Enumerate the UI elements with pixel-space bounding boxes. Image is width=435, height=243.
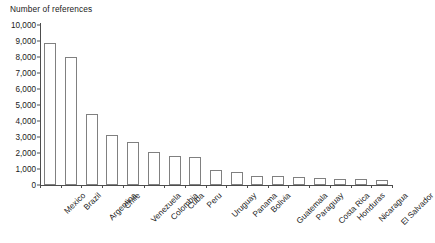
bar-venezuela [127, 142, 139, 185]
x-axis-tick-mark [61, 185, 62, 188]
x-axis-tick-mark [288, 185, 289, 188]
x-axis-tick-label: El Salvador [399, 191, 435, 227]
y-axis-tick-label: 3,000 [16, 133, 37, 142]
y-axis-tick-label: 8,000 [16, 53, 37, 62]
x-axis-line [40, 185, 392, 186]
y-axis-tick-mark [37, 57, 40, 58]
x-axis-tick-label: Uruguay [230, 191, 258, 219]
y-axis-tick-mark [37, 169, 40, 170]
bar-guatemala [272, 176, 284, 185]
y-axis-tick-label: 7,000 [16, 69, 37, 78]
x-axis-tick-label: Mexico [63, 191, 88, 216]
x-axis-tick-mark [40, 185, 41, 188]
bar-brazil [65, 57, 77, 185]
bar-paraguay [293, 177, 305, 185]
bar-nicaragua [355, 179, 367, 185]
y-axis-tick-labels: 10,0009,0008,0007,0006,0005,0004,0003,00… [0, 0, 36, 243]
y-axis-tick-mark [37, 89, 40, 90]
x-axis-tick-label: Brazil [82, 191, 103, 212]
x-axis-tick-label: Panama [251, 191, 279, 219]
y-axis-tick-label: 9,000 [16, 37, 37, 46]
x-axis-tick-mark [144, 185, 145, 188]
plot-area [40, 25, 392, 185]
bar-peru [189, 157, 201, 185]
x-axis-tick-mark [226, 185, 227, 188]
bar-bolivia [251, 176, 263, 185]
x-axis-tick-mark [392, 185, 393, 188]
bar-uruguay [210, 170, 222, 185]
bar-colombia [148, 152, 160, 185]
y-axis-tick-mark [37, 153, 40, 154]
x-axis-tick-label: Honduras [356, 191, 387, 222]
y-axis-tick-mark [37, 25, 40, 26]
x-axis-tick-label: Peru [205, 191, 224, 210]
y-axis-tick-label: 4,000 [16, 117, 37, 126]
x-axis-tick-label: Cuba [185, 191, 205, 211]
x-axis-tick-mark [185, 185, 186, 188]
x-axis-tick-label: Argentina [107, 191, 138, 222]
y-axis-tick-mark [37, 137, 40, 138]
x-axis-tick-mark [351, 185, 352, 188]
x-axis-tick-label: Colombia [169, 191, 200, 222]
x-axis-tick-mark [330, 185, 331, 188]
x-axis-tick-mark [123, 185, 124, 188]
x-axis-tick-mark [102, 185, 103, 188]
bar-chile [106, 135, 118, 185]
x-axis-tick-label: Guatemala [295, 191, 330, 226]
x-axis-tick-mark [371, 185, 372, 188]
x-axis-tick-mark [309, 185, 310, 188]
bar-mexico [44, 43, 56, 185]
y-axis-tick-mark [37, 73, 40, 74]
x-axis-tick-label: Nicaragua [377, 191, 410, 224]
x-axis-tick-mark [268, 185, 269, 188]
bar-argentina [86, 114, 98, 185]
y-axis-tick-label: 2,000 [16, 149, 37, 158]
bar-cuba [169, 156, 181, 185]
y-axis-tick-mark [37, 105, 40, 106]
y-axis-tick-label: 1,000 [16, 165, 37, 174]
x-axis-tick-mark [164, 185, 165, 188]
y-axis-tick-label: 5,000 [16, 101, 37, 110]
x-axis-tick-mark [247, 185, 248, 188]
x-axis-tick-mark [206, 185, 207, 188]
x-axis-tick-mark [81, 185, 82, 188]
bar-costa-rica [314, 178, 326, 185]
bar-honduras [334, 179, 346, 185]
y-axis-tick-mark [37, 121, 40, 122]
bar-panama [231, 172, 243, 185]
y-axis-tick-mark [37, 41, 40, 42]
x-axis-tick-label: Bolivia [269, 191, 292, 214]
x-axis-tick-label: Venezuela [149, 191, 182, 224]
y-axis-tick-label: 6,000 [16, 85, 37, 94]
x-axis-tick-label: Chile [123, 191, 143, 211]
x-axis-tick-label: Paraguay [314, 191, 345, 222]
bar-el-salvador [376, 180, 388, 185]
x-axis-tick-label: Costa Rica [336, 191, 371, 226]
y-axis-tick-label: 0 [31, 181, 36, 190]
y-axis-tick-label: 10,000 [11, 21, 36, 30]
